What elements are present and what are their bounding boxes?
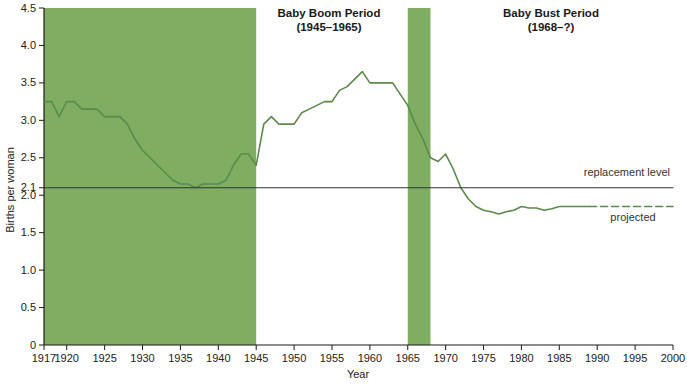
y-axis-title: Births per woman [4,147,16,233]
x-tick-label: 1920 [54,352,78,364]
baby-boom-band-late [408,8,431,345]
x-tick-label: 1990 [585,352,609,364]
y-tick-label: 4.5 [21,2,36,14]
x-tick-label: 1995 [623,352,647,364]
x-tick-label: 1935 [168,352,192,364]
x-tick-label: 1955 [320,352,344,364]
baby-boom-band-early [44,8,256,345]
projected-label: projected [610,211,655,223]
x-tick-label: 1925 [92,352,116,364]
y-tick-label: 0.5 [21,301,36,313]
y-tick-label: 4.0 [21,39,36,51]
x-tick-label: 1945 [244,352,268,364]
baby-bust-title-line1: Baby Bust Period [503,7,599,19]
x-tick-label: 1970 [433,352,457,364]
x-tick-label: 1950 [282,352,306,364]
replacement-level-label: replacement level [584,166,670,178]
x-tick-label: 1940 [206,352,230,364]
baby-boom-title-line1: Baby Boom Period [278,7,381,19]
x-tick-label: 1960 [358,352,382,364]
y-tick-label: 0 [30,339,36,351]
y-tick-label: 3.5 [21,76,36,88]
x-tick-label: 1975 [471,352,495,364]
x-tick-label: 1965 [396,352,420,364]
x-tick-label: 1985 [547,352,571,364]
x-axis-title: Year [347,368,370,380]
y-tick-label: 2.5 [21,151,36,163]
x-tick-label: 1917 [32,352,56,364]
baby-bust-title-line2: (1968–?) [528,21,575,33]
x-tick-label: 1930 [130,352,154,364]
chart-svg: 00.51.01.52.02.12.53.03.54.04.5 19171920… [0,0,687,384]
x-tick-label: 1980 [509,352,533,364]
y-tick-label: 2.1 [21,181,36,193]
y-tick-label: 3.0 [21,114,36,126]
y-tick-label: 1.0 [21,264,36,276]
y-tick-label: 1.5 [21,226,36,238]
fertility-rate-chart: 00.51.01.52.02.12.53.03.54.04.5 19171920… [0,0,687,384]
baby-boom-title-line2: (1945–1965) [296,21,361,33]
x-tick-label: 2000 [661,352,685,364]
